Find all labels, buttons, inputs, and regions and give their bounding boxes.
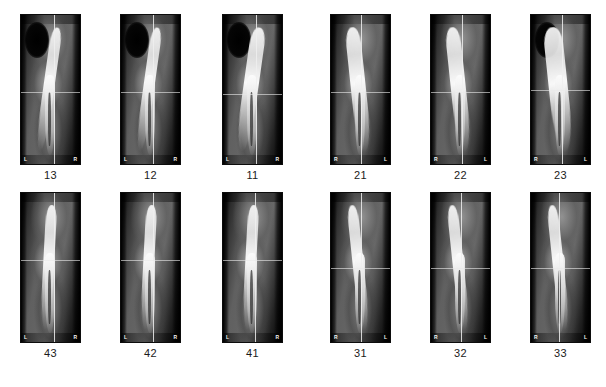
orientation-label-right: L — [584, 335, 587, 340]
root-canal — [558, 92, 561, 146]
crosshair-vertical-line[interactable] — [255, 193, 256, 342]
tooth-number-caption: 21 — [330, 169, 391, 182]
slice-mask-left — [223, 193, 229, 342]
slice-volume — [21, 193, 80, 342]
cbct-slice-image-32[interactable]: RL — [430, 192, 491, 343]
orientation-label-left: L — [124, 335, 127, 340]
slice-cell-21[interactable]: RL21 — [330, 14, 391, 165]
crosshair-horizontal-line[interactable] — [531, 268, 590, 269]
orientation-label-left: R — [334, 157, 338, 162]
crosshair-horizontal-line[interactable] — [21, 92, 80, 93]
tooth-number-caption: 33 — [530, 347, 591, 360]
slice-cell-23[interactable]: RL23 — [530, 14, 591, 165]
root-canal — [148, 92, 151, 146]
tooth-number-caption: 43 — [20, 347, 81, 360]
slice-volume — [223, 15, 282, 164]
orientation-label-right: L — [384, 157, 387, 162]
crosshair-horizontal-line[interactable] — [531, 90, 590, 91]
tooth-number-caption: 32 — [430, 347, 491, 360]
crosshair-vertical-line[interactable] — [153, 193, 154, 342]
crosshair-horizontal-line[interactable] — [331, 92, 390, 93]
orientation-label-right: R — [73, 157, 77, 162]
slice-volume — [121, 193, 180, 342]
slice-cell-32[interactable]: RL32 — [430, 192, 491, 343]
slice-mask-right — [482, 15, 490, 164]
slice-cell-13[interactable]: LR13 — [20, 14, 81, 165]
orientation-label-right: R — [173, 335, 177, 340]
orientation-label-left: L — [24, 157, 27, 162]
crosshair-horizontal-line[interactable] — [121, 260, 180, 261]
tooth-number-caption: 11 — [222, 169, 283, 182]
slice-cell-41[interactable]: LR41 — [222, 192, 283, 343]
cbct-slice-image-21[interactable]: RL — [330, 14, 391, 165]
slice-mask-right — [274, 15, 282, 164]
cbct-slice-image-31[interactable]: RL — [330, 192, 391, 343]
crosshair-horizontal-line[interactable] — [431, 92, 490, 93]
root-canal — [250, 92, 253, 146]
slice-cell-11[interactable]: LR11 — [222, 14, 283, 165]
orientation-label-left: R — [534, 157, 538, 162]
cbct-slice-image-42[interactable]: LR — [120, 192, 181, 343]
tooth-number-caption: 41 — [222, 347, 283, 360]
cbct-slice-image-12[interactable]: LR — [120, 14, 181, 165]
tooth-number-caption: 31 — [330, 347, 391, 360]
slice-mask-right — [172, 193, 180, 342]
orientation-label-left: L — [226, 335, 229, 340]
slice-volume — [431, 15, 490, 164]
slice-mask-left — [21, 15, 27, 164]
crosshair-horizontal-line[interactable] — [121, 92, 180, 93]
slice-cell-43[interactable]: LR43 — [20, 192, 81, 343]
crosshair-horizontal-line[interactable] — [331, 268, 390, 269]
cbct-slice-image-11[interactable]: LR — [222, 14, 283, 165]
orientation-label-right: R — [275, 335, 279, 340]
orientation-label-left: R — [434, 157, 438, 162]
orientation-label-left: R — [334, 335, 338, 340]
slice-cell-31[interactable]: RL31 — [330, 192, 391, 343]
cbct-slice-image-13[interactable]: LR — [20, 14, 81, 165]
slice-mask-left — [121, 15, 127, 164]
orientation-label-left: L — [24, 335, 27, 340]
root-canal — [250, 270, 253, 324]
crosshair-vertical-line[interactable] — [462, 15, 463, 164]
slice-cell-42[interactable]: LR42 — [120, 192, 181, 343]
slice-cell-33[interactable]: RL33 — [530, 192, 591, 343]
crosshair-horizontal-line[interactable] — [431, 268, 490, 269]
crosshair-vertical-line[interactable] — [153, 15, 154, 164]
orientation-label-left: L — [226, 157, 229, 162]
root-canal — [48, 270, 51, 324]
slice-mask-right — [72, 15, 80, 164]
cbct-slice-image-22[interactable]: RL — [430, 14, 491, 165]
slice-mask-left — [331, 15, 337, 164]
cbct-slice-image-43[interactable]: LR — [20, 192, 81, 343]
orientation-label-right: L — [384, 335, 387, 340]
orientation-label-right: L — [484, 335, 487, 340]
root-canal — [148, 270, 151, 324]
crosshair-vertical-line[interactable] — [361, 15, 362, 164]
orientation-label-left: L — [124, 157, 127, 162]
orientation-label-right: R — [173, 157, 177, 162]
orientation-label-right: R — [275, 157, 279, 162]
slice-volume — [21, 15, 80, 164]
slice-mask-left — [21, 193, 27, 342]
crosshair-vertical-line[interactable] — [256, 15, 257, 164]
cbct-slice-image-41[interactable]: LR — [222, 192, 283, 343]
tooth-number-caption: 13 — [20, 169, 81, 182]
slice-mask-right — [274, 193, 282, 342]
cbct-slice-image-33[interactable]: RL — [530, 192, 591, 343]
slice-mask-left — [223, 15, 229, 164]
slice-mask-left — [121, 193, 127, 342]
orientation-label-left: R — [434, 335, 438, 340]
orientation-label-left: R — [534, 335, 538, 340]
crosshair-vertical-line[interactable] — [54, 193, 55, 342]
slice-cell-12[interactable]: LR12 — [120, 14, 181, 165]
tooth-number-caption: 42 — [120, 347, 181, 360]
cbct-slice-image-23[interactable]: RL — [530, 14, 591, 165]
crosshair-horizontal-line[interactable] — [223, 260, 282, 261]
crosshair-horizontal-line[interactable] — [223, 94, 282, 95]
crosshair-vertical-line[interactable] — [54, 15, 55, 164]
slice-cell-22[interactable]: RL22 — [430, 14, 491, 165]
slice-volume — [223, 193, 282, 342]
crosshair-horizontal-line[interactable] — [21, 260, 80, 261]
slice-mask-right — [382, 15, 390, 164]
tooth-number-caption: 23 — [530, 169, 591, 182]
